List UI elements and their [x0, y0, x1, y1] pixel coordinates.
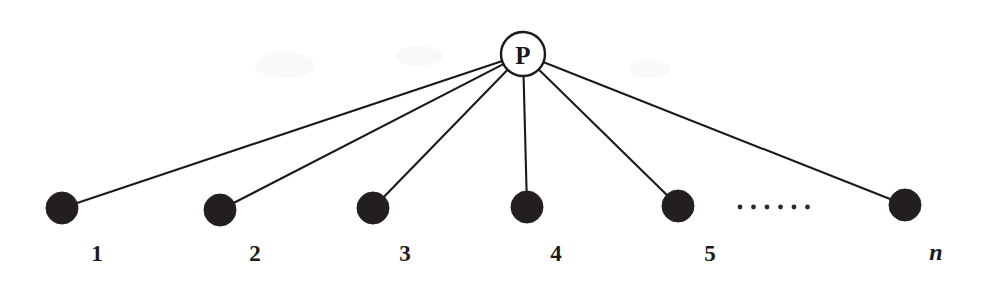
edge-p-to-4 — [524, 75, 527, 195]
leaf-nodes-layer — [46, 189, 921, 226]
leaf-node-2[interactable] — [204, 194, 236, 226]
leaf-node-4-label: 4 — [550, 242, 562, 265]
edge-p-to-n — [543, 62, 894, 201]
star-graph-diagram: P 12345n — [0, 0, 986, 291]
graph-canvas: P — [0, 0, 986, 291]
ellipsis-dot — [765, 205, 770, 210]
leaf-node-4[interactable] — [511, 191, 543, 223]
edge-p-to-5 — [538, 69, 669, 198]
leaf-node-5[interactable] — [662, 190, 694, 222]
edge-p-to-3 — [381, 69, 508, 199]
hub-node-p[interactable]: P — [501, 32, 545, 76]
edge-p-to-2 — [231, 64, 505, 205]
edges-layer — [73, 61, 893, 205]
leaf-node-n[interactable] — [889, 189, 921, 221]
edge-p-to-1 — [73, 61, 503, 205]
leaf-node-2-label: 2 — [249, 242, 261, 265]
leaf-node-1-label: 1 — [91, 242, 103, 265]
ellipsis-dot — [778, 205, 783, 210]
leaf-node-n-label: n — [929, 240, 942, 264]
leaf-node-3-label: 3 — [399, 242, 411, 265]
leaf-node-5-label: 5 — [704, 242, 716, 265]
hub-node-label: P — [515, 42, 530, 69]
ellipsis-dot — [738, 205, 743, 210]
leaf-node-3[interactable] — [357, 192, 389, 224]
ellipsis-dot — [751, 205, 756, 210]
ellipsis-dot — [792, 205, 797, 210]
ellipsis-dots — [738, 205, 810, 210]
leaf-node-1[interactable] — [46, 192, 78, 224]
ellipsis-dot — [805, 205, 810, 210]
